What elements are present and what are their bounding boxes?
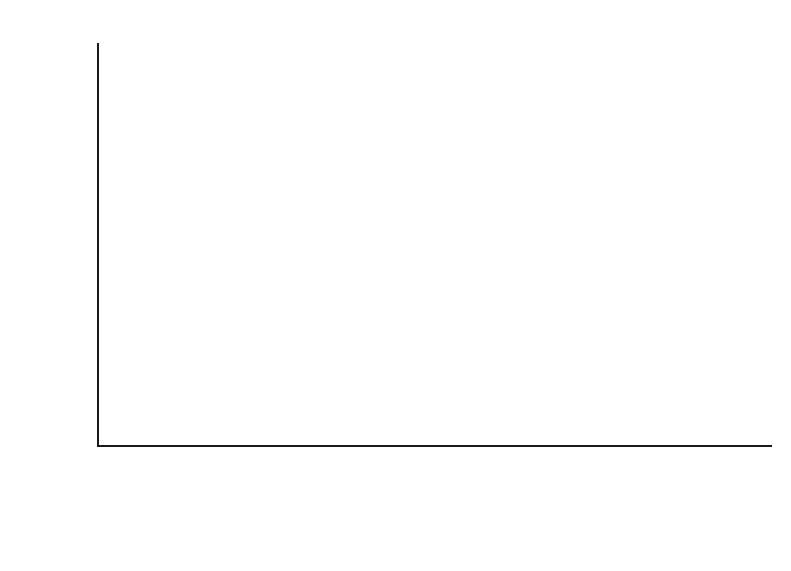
plot-area bbox=[97, 43, 772, 446]
y-axis-line bbox=[97, 43, 99, 446]
x-axis-line bbox=[97, 445, 772, 447]
stacked-bar-chart bbox=[0, 0, 791, 571]
